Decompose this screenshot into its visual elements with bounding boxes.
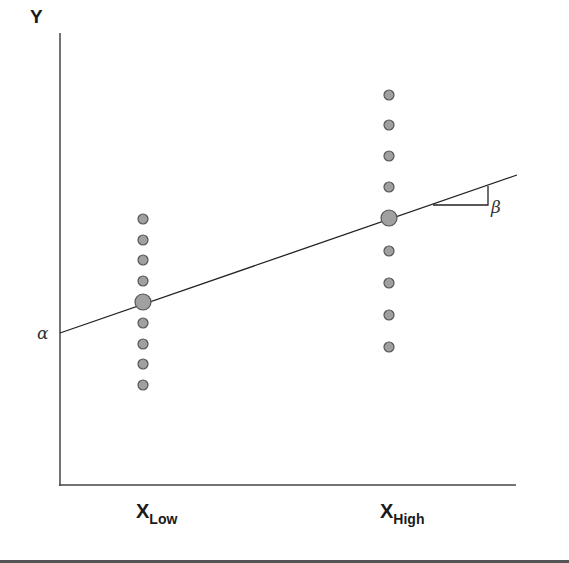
data-point xyxy=(384,120,394,130)
data-point xyxy=(384,151,394,161)
mean-point xyxy=(135,294,151,310)
data-point xyxy=(138,359,148,369)
x-high-sub: High xyxy=(393,511,424,527)
data-point xyxy=(384,278,394,288)
regression-diagram: Y α β XLow XHigh xyxy=(0,0,569,563)
slope-beta-label: β xyxy=(491,197,501,217)
data-point xyxy=(138,380,148,390)
data-point xyxy=(384,246,394,256)
mean-point xyxy=(381,210,397,226)
x-low-main: X xyxy=(136,500,149,522)
data-point xyxy=(384,90,394,100)
data-point xyxy=(138,318,148,328)
data-point xyxy=(384,310,394,320)
data-point xyxy=(138,235,148,245)
data-point xyxy=(384,182,394,192)
regression-line xyxy=(60,175,517,333)
data-points xyxy=(135,90,397,390)
y-axis-label: Y xyxy=(30,6,43,28)
plot-area xyxy=(0,0,569,563)
x-low-sub: Low xyxy=(149,511,177,527)
x-high-main: X xyxy=(380,500,393,522)
data-point xyxy=(138,255,148,265)
data-point xyxy=(384,342,394,352)
x-low-label: XLow xyxy=(136,500,177,527)
intercept-alpha-label: α xyxy=(37,323,48,343)
x-high-label: XHigh xyxy=(380,500,424,527)
data-point xyxy=(138,276,148,286)
slope-triangle xyxy=(433,186,488,205)
data-point xyxy=(138,214,148,224)
data-point xyxy=(138,339,148,349)
